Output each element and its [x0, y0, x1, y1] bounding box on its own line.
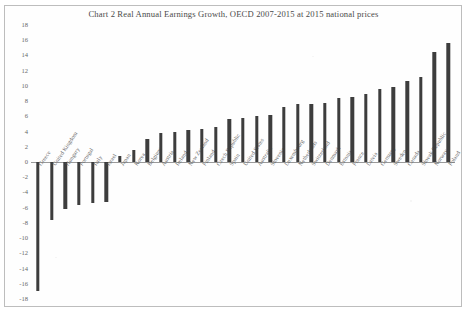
bar-slot: Korea	[127, 25, 141, 299]
bar[interactable]	[364, 94, 367, 163]
bar-slot: Netherlands	[291, 25, 305, 299]
bar-slot: Latvia	[359, 25, 373, 299]
y-tick-neg2: -2	[23, 174, 29, 181]
y-tick-neg12: -12	[19, 250, 28, 257]
y-tick-neg18: -18	[19, 296, 28, 303]
bar-slot: New Zealand	[181, 25, 195, 299]
bar[interactable]	[310, 104, 313, 162]
bar-slot: Austria	[154, 25, 168, 299]
y-tick-neg10: -10	[19, 235, 28, 242]
y-tick-neg4: -4	[23, 189, 29, 196]
bar-slot: Belgium	[140, 25, 154, 299]
bar[interactable]	[36, 162, 39, 291]
bar[interactable]	[296, 104, 299, 162]
y-tick-2: 2	[25, 143, 28, 150]
plot-area: 181614121086420-2-4-6-8-10-12-14-16-18 G…	[31, 25, 455, 299]
y-tick-18: 18	[21, 22, 28, 29]
bar-slot: Estonia	[332, 25, 346, 299]
bar-slot: Slovenia	[264, 25, 278, 299]
y-tick-neg14: -14	[19, 265, 28, 272]
bar-slot: Poland	[441, 25, 455, 299]
bar[interactable]	[200, 129, 203, 162]
bar[interactable]	[282, 107, 285, 162]
bar-slot: Germany	[373, 25, 387, 299]
y-tick-neg8: -8	[23, 220, 29, 227]
bar[interactable]	[50, 162, 53, 220]
bar-slot: United States	[236, 25, 250, 299]
bar-slot: Canada	[400, 25, 414, 299]
bar[interactable]	[351, 97, 354, 162]
bar-slot: Finland	[195, 25, 209, 299]
bar[interactable]	[378, 89, 381, 162]
bar[interactable]	[405, 81, 408, 162]
bar-slot: France	[346, 25, 360, 299]
bar-slot: Switzerland	[305, 25, 319, 299]
bar-slot: Ireland	[168, 25, 182, 299]
bar-slot: Sweden	[387, 25, 401, 299]
y-tick-10: 10	[21, 83, 28, 90]
bar-slot: Norway	[428, 25, 442, 299]
bar-slot: Czech Republic	[209, 25, 223, 299]
y-tick-4: 4	[25, 128, 28, 135]
bar[interactable]	[446, 43, 449, 162]
bar[interactable]	[63, 162, 66, 209]
y-tick-12: 12	[21, 67, 28, 74]
y-tick-16: 16	[21, 37, 28, 44]
y-tick-neg16: -16	[19, 280, 28, 287]
bar-slot: Slovak Republic	[414, 25, 428, 299]
y-tick-0: 0	[25, 159, 28, 166]
bar[interactable]	[159, 133, 162, 162]
bar[interactable]	[241, 118, 244, 162]
bar[interactable]	[419, 77, 422, 162]
bar[interactable]	[269, 115, 272, 162]
bar-slot: Portugal	[72, 25, 86, 299]
y-tick-6: 6	[25, 113, 28, 120]
bar[interactable]	[433, 52, 436, 162]
bar[interactable]	[91, 162, 94, 203]
bar[interactable]	[392, 87, 395, 162]
bar[interactable]	[77, 162, 80, 205]
bar[interactable]	[173, 132, 176, 162]
bar-slot: Israel	[99, 25, 113, 299]
bar-slot: Italy	[86, 25, 100, 299]
bar[interactable]	[105, 162, 108, 202]
bar[interactable]	[337, 98, 340, 162]
y-tick-8: 8	[25, 98, 28, 105]
bar-slot: Hungary	[58, 25, 72, 299]
bar[interactable]	[228, 119, 231, 162]
bar-slot: Australia	[250, 25, 264, 299]
y-tick-14: 14	[21, 52, 28, 59]
bar[interactable]	[214, 127, 217, 162]
bar-slot: Spain	[222, 25, 236, 299]
bar-series: GreeceUnited KingdomHungaryPortugalItaly…	[31, 25, 455, 299]
bar[interactable]	[187, 130, 190, 162]
bar-slot: Luxembourg	[277, 25, 291, 299]
bar[interactable]	[323, 103, 326, 162]
y-tick-neg6: -6	[23, 204, 29, 211]
bar-slot: Denmark	[318, 25, 332, 299]
bar-slot: United Kingdom	[45, 25, 59, 299]
bar-slot: Greece	[31, 25, 45, 299]
bar-slot: Japan	[113, 25, 127, 299]
bar[interactable]	[255, 116, 258, 162]
chart-title: Chart 2 Real Annual Earnings Growth, OEC…	[0, 9, 467, 19]
